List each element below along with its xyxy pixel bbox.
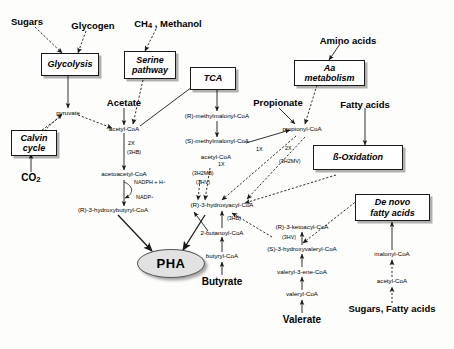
tca-label: TCA — [204, 73, 223, 83]
annotation-3hb-butyrate: (3HB) — [227, 215, 241, 221]
annotation-1x-left: 1X — [256, 146, 263, 152]
annotation-3hv-center: (3HV) — [196, 179, 210, 185]
metabolite-r-3-hydroxybutyryl-coa: (R)-3-hydroxybutyryl-CoA — [78, 207, 148, 214]
substrate-co2: CO2 — [21, 172, 40, 185]
process-box-serine-pathway[interactable]: Serine pathway — [124, 51, 176, 79]
calvin-cycle-label-line2: cycle — [20, 143, 47, 153]
aa-metabolism-label-line2: metabolism — [304, 73, 354, 83]
annotation-3h2mv: (3H2MV) — [279, 158, 301, 164]
ch4-prefix: CH — [134, 18, 148, 29]
metabolite-r-3-hydroxyacyl-coa: (R)-3-hydroxyacyl-CoA — [191, 202, 254, 209]
substrate-butyrate: Butyrate — [202, 276, 243, 287]
aa-metabolism-label-line1: Aa — [304, 63, 354, 73]
de-novo-label-line2: fatty acids — [370, 208, 415, 218]
substrate-sugars-fatty-acids: Sugars, Fatty acids — [348, 304, 435, 315]
substrate-amino-acids: Amino acids — [320, 36, 377, 47]
metabolite-butyryl-coa: butyryl-CoA — [206, 253, 238, 260]
annotation-nadph: NADPH + H+ — [134, 179, 165, 185]
nadph-superscript: + — [163, 179, 165, 184]
nadph-text: NADPH + H — [134, 179, 163, 185]
metabolite-valeryl-3-ene-coa: valeryl-3-ene-CoA — [277, 269, 327, 276]
metabolite-acetoacetyl-coa: acetoacetyl-CoA — [101, 171, 146, 178]
metabolite-s-3-hydroxyvaleryl-coa: (S)-3-hydroxyvaleryl-CoA — [267, 246, 336, 253]
substrate-ch4-methanol: CH4 , Methanol — [134, 19, 201, 31]
annotation-3hv-valerate: (3HV) — [282, 234, 296, 240]
annotation-3hb-paren: (3HB) — [127, 149, 141, 155]
process-box-calvin-cycle[interactable]: Calvin cycle — [11, 130, 57, 156]
substrate-glycogen: Glycogen — [71, 21, 114, 32]
nadp-text: NADP — [136, 194, 151, 200]
substrate-fatty-acids: Fatty acids — [340, 100, 390, 111]
annotation-1x-center: 1X — [218, 161, 225, 167]
metabolite-r-methylmalonyl-coa: (R)-methylmalonyl-CoA — [185, 113, 249, 120]
substrate-valerate: Valerate — [283, 314, 321, 325]
metabolite-r-3-ketoacyl-coa: (R)-3-ketoacyl-CoA — [276, 224, 329, 231]
co2-subscript: 2 — [36, 175, 40, 184]
substrate-sugars: Sugars — [11, 17, 43, 28]
metabolite-acetyl-coa-center: acetyl-CoA — [201, 154, 231, 161]
annotation-2x-right: 2X — [285, 145, 292, 151]
glycolysis-label: Glycolysis — [47, 59, 92, 69]
nadp-superscript: + — [151, 194, 153, 199]
metabolite-acetyl-coa-de-novo: acetyl-CoA — [377, 278, 407, 285]
annotation-2x-hb: 2X — [128, 140, 135, 146]
metabolite-2-butanoyl-coa: 2-butanoyl-CoA — [201, 230, 244, 237]
substrate-propionate: Propionate — [253, 98, 303, 109]
substrate-acetate: Acetate — [107, 98, 141, 109]
process-box-tca[interactable]: TCA — [190, 67, 236, 90]
ch4-suffix: , Methanol — [152, 18, 202, 29]
annotation-3h2mb: (3H2MB) — [192, 170, 214, 176]
serine-label-line1: Serine — [132, 55, 168, 65]
calvin-cycle-label-line1: Calvin — [20, 133, 47, 143]
metabolite-valeryl-coa: valeryl-CoA — [286, 291, 318, 298]
process-box-de-novo-fatty-acids[interactable]: De novo fatty acids — [355, 194, 430, 221]
metabolite-s-methylmalonyl-coa: (S)-methylmalonyl-CoA — [185, 138, 249, 145]
metabolite-acetyl-coa-main: acetyl-CoA — [109, 126, 139, 133]
metabolite-pyruvate: pyruvate — [56, 110, 80, 117]
co2-prefix: CO — [21, 172, 36, 183]
pathway-diagram-canvas: Glycolysis Serine pathway TCA Aa metabol… — [0, 0, 454, 349]
process-box-glycolysis[interactable]: Glycolysis — [41, 53, 99, 76]
beta-oxidation-label: ß-Oxidation — [333, 152, 383, 162]
serine-label-line2: pathway — [132, 65, 168, 75]
metabolite-malonyl-coa: malonyl-CoA — [374, 251, 409, 258]
de-novo-label-line1: De novo — [370, 197, 415, 207]
process-box-beta-oxidation[interactable]: ß-Oxidation — [313, 145, 403, 170]
annotation-nadp: NADP+ — [136, 194, 153, 200]
pha-label: PHA — [157, 256, 186, 271]
process-box-aa-metabolism[interactable]: Aa metabolism — [294, 60, 365, 86]
metabolite-propionyl-coa: propionyl-CoA — [282, 126, 321, 133]
product-node-pha[interactable]: PHA — [137, 249, 205, 278]
